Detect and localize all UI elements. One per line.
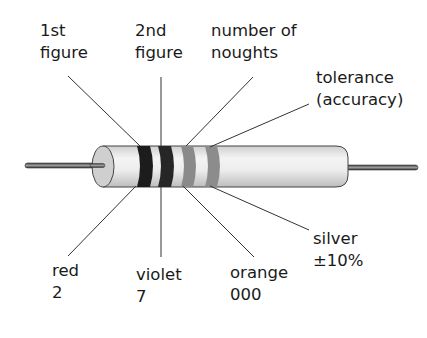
label-orange-value: 000 (230, 284, 288, 306)
label-violet: violet 7 (136, 264, 182, 308)
right-lead-wire (345, 165, 418, 170)
label-silver: silver ±10% (313, 228, 364, 272)
label-red-value: 2 (52, 282, 79, 304)
label-red: red 2 (52, 260, 79, 304)
leader-first-figure (68, 76, 140, 146)
label-violet-color: violet (136, 264, 182, 286)
label-red-color: red (52, 260, 79, 282)
leader-tolerance (210, 104, 309, 147)
leader-noughts (186, 77, 253, 146)
label-first-figure: 1st figure (40, 20, 88, 64)
resistor-body (90, 146, 348, 187)
label-silver-color: silver (313, 228, 364, 250)
label-orange-color: orange (230, 262, 288, 284)
label-orange: orange 000 (230, 262, 288, 306)
label-silver-value: ±10% (313, 250, 364, 272)
label-number-of-noughts: number of noughts (211, 20, 297, 64)
label-second-figure-line1: 2nd (135, 20, 183, 42)
label-tolerance-line1: tolerance (316, 67, 403, 89)
label-second-figure-line2: figure (135, 42, 183, 64)
label-tolerance-line2: (accuracy) (316, 89, 403, 111)
label-first-figure-line2: figure (40, 42, 88, 64)
leader-orange (183, 186, 254, 257)
label-tolerance: tolerance (accuracy) (316, 67, 403, 111)
label-noughts-line1: number of (211, 20, 297, 42)
leader-silver (210, 186, 309, 230)
leader-red (68, 186, 136, 256)
label-noughts-line2: noughts (211, 42, 297, 64)
label-second-figure: 2nd figure (135, 20, 183, 64)
label-violet-value: 7 (136, 286, 182, 308)
label-first-figure-line1: 1st (40, 20, 88, 42)
